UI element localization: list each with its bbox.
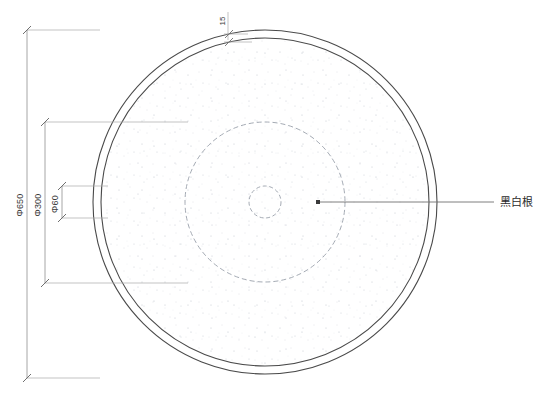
material-callout-label: 黑白根 bbox=[500, 195, 533, 209]
technical-drawing-svg: Φ650 Φ300 Φ60 15 bbox=[0, 0, 552, 397]
leader-arrow-dot bbox=[316, 200, 320, 204]
dimension-label-phi-300: Φ300 bbox=[33, 194, 43, 217]
dimension-phi-60: Φ60 bbox=[50, 182, 108, 222]
cad-drawing-canvas: Φ650 Φ300 Φ60 15 bbox=[0, 0, 552, 397]
dimension-label-phi-60: Φ60 bbox=[50, 195, 60, 213]
dimension-label-band-15: 15 bbox=[218, 16, 227, 25]
dimension-label-phi-650: Φ650 bbox=[15, 194, 25, 217]
